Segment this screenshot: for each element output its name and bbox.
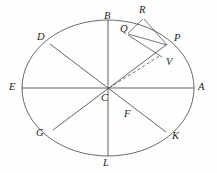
figure-canvas <box>0 0 217 173</box>
ellipse-diagram: A B C D E F G K L P Q R V <box>0 0 217 173</box>
label-point-Q: Q <box>120 24 128 35</box>
label-point-G: G <box>36 128 44 139</box>
label-point-R: R <box>139 5 145 16</box>
label-point-E: E <box>9 82 15 93</box>
label-point-P: P <box>174 33 180 44</box>
dashed-segment-CV <box>109 55 161 88</box>
label-point-C: C <box>101 93 108 104</box>
label-point-A: A <box>198 82 204 93</box>
label-point-F: F <box>124 109 130 120</box>
label-point-K: K <box>172 131 179 142</box>
label-point-D: D <box>37 32 45 43</box>
segment-RP <box>144 19 167 45</box>
label-point-B: B <box>104 11 110 22</box>
label-point-L: L <box>103 158 109 169</box>
segment-RQ <box>128 19 143 33</box>
segment-QV <box>128 35 162 57</box>
segment-QP <box>128 34 167 45</box>
label-point-V: V <box>166 57 172 68</box>
